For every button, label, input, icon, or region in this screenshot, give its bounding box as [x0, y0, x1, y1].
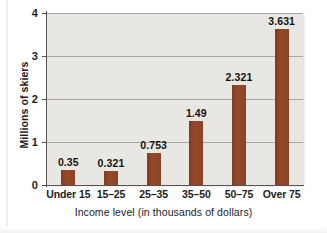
y-tick-label: 2 — [32, 93, 38, 105]
y-tick-label: 3 — [32, 50, 38, 62]
gridline — [47, 142, 303, 143]
bar — [147, 153, 161, 185]
bar-value-label: 0.321 — [98, 157, 125, 169]
bar — [61, 170, 75, 185]
x-tick-label: 35–50 — [182, 188, 211, 200]
bar-chart-figure: 01234 Millions of skiers Under 1515–2525… — [0, 0, 327, 233]
page-bottom-artifact — [0, 227, 327, 233]
gridline — [47, 13, 303, 14]
bar — [275, 29, 289, 185]
x-tick-label: 15–25 — [97, 188, 126, 200]
bar-value-label: 0.35 — [58, 156, 79, 168]
y-tick-mark — [42, 56, 46, 57]
x-axis-title: Income level (in thousands of dollars) — [0, 206, 327, 218]
y-axis-line — [46, 11, 47, 187]
x-tick-label: 25–35 — [139, 188, 168, 200]
y-tick-mark — [42, 99, 46, 100]
bar-value-label: 1.49 — [186, 107, 207, 119]
y-tick-label: 1 — [32, 136, 38, 148]
bar-value-label: 2.321 — [226, 71, 253, 83]
page-edge-artifact — [6, 0, 8, 233]
y-tick-label: 4 — [32, 7, 38, 19]
y-tick-label: 0 — [32, 179, 38, 191]
y-tick-mark — [42, 13, 46, 14]
y-tick-mark — [42, 142, 46, 143]
x-tick-label: 50–75 — [225, 188, 254, 200]
x-tick-label: Under 15 — [46, 188, 90, 200]
x-axis-line — [46, 185, 304, 186]
plot-area — [47, 13, 303, 185]
gridline — [47, 56, 303, 57]
gridlines-group — [47, 13, 303, 185]
gridline — [47, 99, 303, 100]
bar — [104, 171, 118, 185]
bar-value-label: 3.631 — [268, 15, 295, 27]
bar — [189, 121, 203, 185]
bar-value-label: 0.753 — [140, 139, 167, 151]
bar — [232, 85, 246, 185]
x-tick-label: Over 75 — [263, 188, 301, 200]
y-tick-mark — [42, 185, 46, 186]
y-axis-title: Millions of skiers — [18, 50, 30, 160]
